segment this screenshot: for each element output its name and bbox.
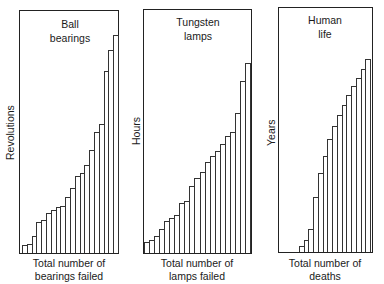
bars bbox=[20, 11, 118, 253]
plot-frame: Human life bbox=[278, 7, 373, 253]
x-axis-label: Total number of lamps failed bbox=[132, 257, 262, 282]
x-axis-label-line-1: Total number of bbox=[132, 257, 262, 270]
x-axis-label: Total number of deaths bbox=[260, 257, 384, 282]
chart-human-life: Years Human life Total number of deaths bbox=[254, 0, 384, 284]
x-axis-label: Total number of bearings failed bbox=[4, 257, 134, 282]
x-axis-label-line-2: lamps failed bbox=[132, 270, 262, 283]
bars bbox=[279, 8, 372, 252]
x-axis-label-line-1: Total number of bbox=[260, 257, 384, 270]
chart-tungsten-lamps: Hours Tungsten lamps Total number of lam… bbox=[125, 0, 255, 284]
bar bbox=[365, 59, 371, 252]
bar bbox=[245, 63, 251, 253]
chart-ball-bearings: Revolutions Ball bearings Total number o… bbox=[0, 0, 128, 284]
y-axis-label: Revolutions bbox=[4, 105, 16, 160]
x-axis-label-line-1: Total number of bbox=[4, 257, 134, 270]
plot-frame: Ball bearings bbox=[19, 10, 119, 254]
bar bbox=[113, 35, 119, 253]
x-axis-label-line-2: bearings failed bbox=[4, 270, 134, 283]
plot-frame: Tungsten lamps bbox=[143, 9, 252, 254]
y-axis-label: Years bbox=[265, 120, 277, 146]
bars bbox=[144, 10, 251, 253]
x-axis-label-line-2: deaths bbox=[260, 270, 384, 283]
y-axis-label: Hours bbox=[130, 117, 142, 145]
